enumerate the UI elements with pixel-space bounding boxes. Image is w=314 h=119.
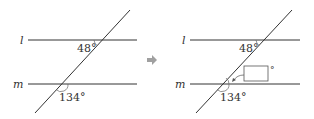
right-arrow-icon — [147, 55, 157, 65]
pointer-arrow — [234, 75, 244, 80]
right-figure: l m 48° 134° ° — [175, 10, 300, 113]
angle-top-label: 48° — [77, 42, 97, 55]
line-m-label: m — [13, 78, 23, 91]
parallel-lines-diagram: l m 48° 134° l m 48° 134° ° — [0, 0, 314, 119]
angle-bottom-label: 134° — [59, 91, 86, 104]
angle-bottom-label: 134° — [220, 91, 247, 104]
left-figure: l m 48° 134° — [13, 10, 137, 113]
line-m-label: m — [175, 78, 185, 91]
line-l-label: l — [182, 34, 186, 47]
line-l-label: l — [20, 34, 24, 47]
angle-top-label: 48° — [239, 42, 259, 55]
answer-box[interactable] — [244, 66, 268, 81]
answer-box-unit: ° — [270, 65, 275, 75]
